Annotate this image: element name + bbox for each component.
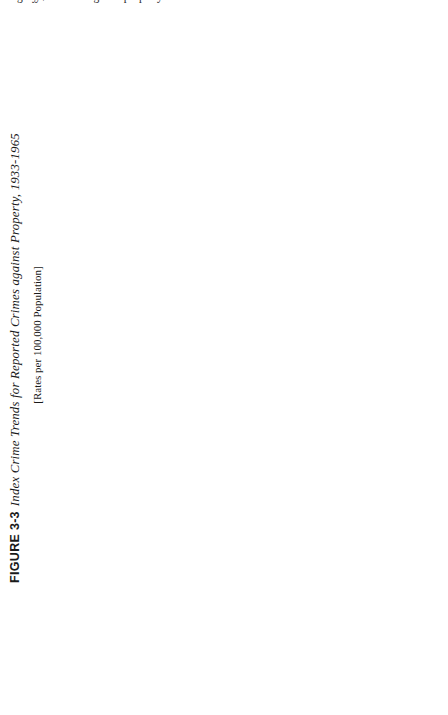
line-chart: Total index crimes against property Burg… <box>0 0 448 715</box>
label-larceny: Larceny $50 and over <box>0 0 101 3</box>
series-annotations: Total index crimes against property Burg… <box>0 0 163 3</box>
figure-container: FIGURE 3-3Index Crime Trends for Reporte… <box>0 0 448 715</box>
